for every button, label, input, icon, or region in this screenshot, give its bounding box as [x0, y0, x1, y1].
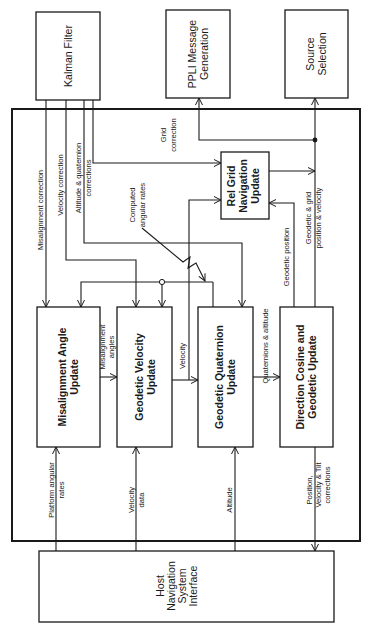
- junction-open-circle: [159, 279, 164, 284]
- host-label-line4: Interface: [187, 565, 199, 606]
- host-navigation-system-interface-block: Host Navigation System Interface: [39, 551, 334, 622]
- label-pvt-2: Velocity & Tilt: [314, 462, 323, 508]
- rel-grid-navigation-update-block: Rel Grid Navigation Update: [221, 152, 269, 219]
- label-platform-rates-2: rates: [57, 481, 66, 498]
- source-label-line2: Selection: [316, 32, 328, 75]
- label-geodetic-position: Geodetic position: [282, 228, 291, 287]
- junction-dot: [313, 138, 318, 143]
- kalman-filter-label: Kalman Filter: [62, 25, 74, 87]
- label-altitude-quaternion-2: corrections: [84, 159, 93, 196]
- dircos-label-line2: Geodetic Update: [306, 335, 318, 419]
- label-velocity-data-2: data: [137, 492, 146, 508]
- misalign-label-line1: Misalignment Angle: [56, 327, 68, 426]
- misalign-label-line2: Update: [68, 359, 80, 395]
- ppli-label-line1: PPLI Message: [186, 20, 198, 88]
- label-geodetic-grid-1: Geodetic & grid: [304, 192, 313, 244]
- navigation-block-diagram: Kalman Filter PPLI Message Generation So…: [0, 0, 373, 626]
- ppli-message-generation-block: PPLI Message Generation: [166, 10, 230, 98]
- label-velocity-data-1: Velocity: [127, 487, 136, 513]
- label-quaternions-altitude: Quaternions & altitude: [261, 308, 270, 383]
- source-selection-block: Source Selection: [285, 10, 348, 98]
- label-computed-rates-1: Computed: [128, 187, 137, 222]
- quaternion-label-line2: Update: [225, 359, 237, 395]
- label-platform-rates-1: Platform angular: [47, 462, 56, 518]
- relgrid-label-line3: Update: [249, 168, 261, 204]
- branch-to-ppli-line: [199, 98, 315, 140]
- geodetic-quaternion-update-block: Geodetic Quaternion Update: [198, 307, 253, 447]
- velocity-label-line1: Geodetic Velocity: [133, 333, 145, 421]
- label-geodetic-grid-2: position & velocity: [314, 187, 323, 248]
- label-velocity-correction: Velocity correction: [56, 154, 65, 216]
- computed-rates-to-misalign-line: [81, 282, 213, 307]
- velocity-label-line2: Update: [145, 359, 157, 395]
- relgrid-label-line2: Navigation: [237, 159, 249, 213]
- label-misalignment-angles-2: angles: [107, 336, 116, 359]
- label-grid-correction-1: Grid: [159, 128, 168, 142]
- label-altitude: Altitude: [225, 487, 234, 512]
- geodetic-velocity-update-block: Geodetic Velocity Update: [117, 307, 172, 447]
- label-pvt-1: Position,: [305, 475, 314, 504]
- source-label-line1: Source: [304, 37, 316, 70]
- relgrid-label-line1: Rel Grid: [225, 166, 237, 207]
- label-pvt-3: corrections: [323, 466, 332, 503]
- label-altitude-quaternion-1: Altitude & quaternion: [74, 143, 83, 214]
- label-velocity: Velocity: [178, 343, 187, 369]
- kalman-filter-block: Kalman Filter: [36, 12, 100, 100]
- label-misalignment-angles-1: Misalignment: [98, 324, 107, 370]
- dircos-label-line1: Direction Cosine and: [294, 324, 306, 429]
- label-computed-rates-2: angular rates: [138, 183, 147, 228]
- label-grid-correction-2: correction: [169, 118, 178, 151]
- computed-rates-leader: [142, 228, 205, 281]
- ppli-label-line2: Generation: [198, 28, 210, 80]
- label-misalignment-correction: Misalignment correction: [36, 170, 45, 250]
- misalignment-angle-update-block: Misalignment Angle Update: [37, 307, 100, 447]
- direction-cosine-geodetic-update-block: Direction Cosine and Geodetic Update: [280, 307, 333, 447]
- quaternion-label-line1: Geodetic Quaternion: [213, 325, 225, 429]
